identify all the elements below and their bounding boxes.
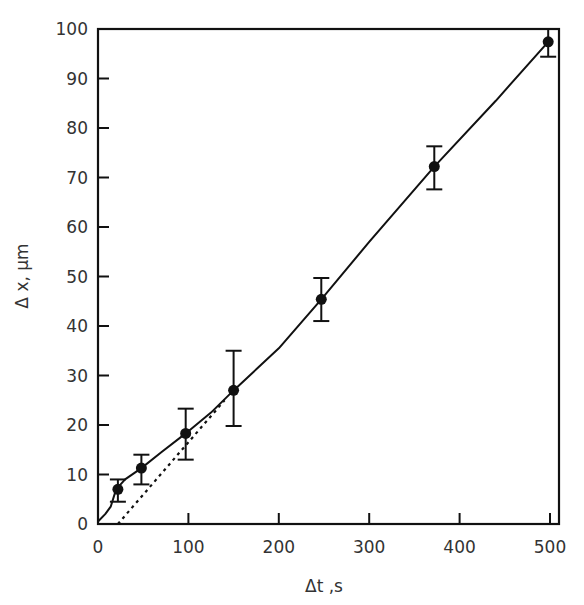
data-marker	[180, 428, 191, 439]
data-point	[226, 351, 242, 426]
y-tick-label: 90	[66, 69, 88, 89]
y-tick-label: 10	[66, 465, 88, 485]
data-marker	[543, 36, 554, 47]
data-marker	[136, 463, 147, 474]
x-axis-label: Δt ,s	[305, 576, 343, 596]
y-tick-label: 80	[66, 118, 88, 138]
data-marker	[429, 161, 440, 172]
y-tick-label: 40	[66, 316, 88, 336]
x-tick-label: 200	[263, 537, 295, 557]
data-marker	[228, 385, 239, 396]
y-axis: 0102030405060708090100	[56, 19, 109, 534]
data-marker	[112, 484, 123, 495]
chart: 0102030405060708090100 0100200300400500 …	[0, 0, 584, 605]
plot-frame	[98, 29, 559, 524]
data-series	[98, 29, 556, 524]
x-axis: 0100200300400500	[93, 513, 567, 557]
linear-extrapolation	[118, 400, 225, 524]
y-tick-label: 30	[66, 366, 88, 386]
data-marker	[316, 294, 327, 305]
y-tick-label: 20	[66, 415, 88, 435]
data-point	[313, 278, 329, 321]
data-point	[133, 455, 149, 485]
x-tick-label: 500	[534, 537, 566, 557]
x-tick-label: 100	[172, 537, 204, 557]
data-point	[540, 29, 556, 57]
x-tick-label: 300	[353, 537, 385, 557]
y-tick-label: 50	[66, 267, 88, 287]
y-axis-label: Δ x, μm	[12, 243, 32, 308]
y-tick-label: 60	[66, 217, 88, 237]
x-tick-label: 400	[443, 537, 475, 557]
y-tick-label: 70	[66, 168, 88, 188]
x-tick-label: 0	[93, 537, 104, 557]
fit-curve	[98, 42, 548, 522]
plot-border	[98, 29, 559, 524]
data-point	[178, 409, 194, 460]
data-point	[426, 146, 442, 189]
y-tick-label: 0	[77, 514, 88, 534]
y-tick-label: 100	[56, 19, 88, 39]
